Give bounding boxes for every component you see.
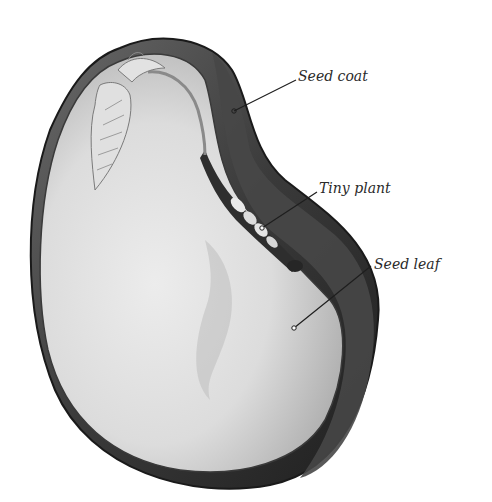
bean-seed-diagram (0, 0, 492, 502)
label-tiny-plant: Tiny plant (319, 181, 391, 195)
label-seed-coat: Seed coat (298, 69, 368, 83)
label-seed-leaf: Seed leaf (374, 257, 440, 271)
